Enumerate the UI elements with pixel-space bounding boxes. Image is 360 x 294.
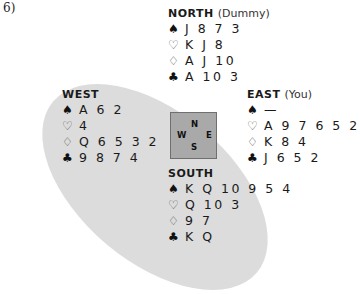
compass-north-label: N bbox=[191, 119, 198, 129]
club-icon: ♣ bbox=[168, 229, 185, 245]
suit-row-hearts: ♡ 4 bbox=[62, 118, 159, 134]
club-cards: A 10 3 bbox=[185, 69, 240, 85]
club-cards: K Q bbox=[185, 229, 215, 245]
hand-south: SOUTH ♠ K Q 10 9 5 4 ♡ Q 10 3 ♢ 9 7 ♣ K … bbox=[168, 167, 293, 245]
club-cards: 9 8 7 4 bbox=[79, 150, 140, 166]
hand-title: SOUTH bbox=[168, 167, 293, 181]
heart-icon: ♡ bbox=[62, 118, 79, 134]
diamond-cards: A J 10 bbox=[185, 53, 236, 69]
hand-north: NORTH (Dummy) ♠ J 8 7 3 ♡ K J 8 ♢ A J 10… bbox=[168, 7, 270, 85]
player-name: WEST bbox=[62, 88, 99, 101]
suit-row-spades: ♠ J 8 7 3 bbox=[168, 21, 270, 37]
spade-icon: ♠ bbox=[168, 21, 185, 37]
compass-south-label: S bbox=[191, 142, 197, 152]
spade-cards: K Q 10 9 5 4 bbox=[185, 181, 293, 197]
heart-cards: 4 bbox=[79, 118, 89, 134]
player-name: SOUTH bbox=[168, 167, 213, 180]
spade-icon: ♠ bbox=[247, 102, 264, 118]
suit-row-hearts: ♡ K J 8 bbox=[168, 37, 270, 53]
suit-row-spades: ♠ K Q 10 9 5 4 bbox=[168, 181, 293, 197]
hand-title: EAST (You) bbox=[247, 88, 360, 102]
club-icon: ♣ bbox=[62, 150, 79, 166]
spade-icon: ♠ bbox=[62, 102, 79, 118]
spade-cards: J 8 7 3 bbox=[185, 21, 242, 37]
heart-icon: ♡ bbox=[247, 118, 264, 134]
spade-cards: — bbox=[264, 102, 279, 118]
suit-row-diamonds: ♢ K 8 4 bbox=[247, 134, 360, 150]
suit-row-diamonds: ♢ Q 6 5 3 2 bbox=[62, 134, 159, 150]
club-icon: ♣ bbox=[168, 69, 185, 85]
suit-row-spades: ♠ — bbox=[247, 102, 360, 118]
suit-row-clubs: ♣ A 10 3 bbox=[168, 69, 270, 85]
heart-cards: Q 10 3 bbox=[185, 197, 242, 213]
spade-cards: A 6 2 bbox=[79, 102, 124, 118]
player-role: (You) bbox=[284, 88, 312, 101]
suit-row-hearts: ♡ Q 10 3 bbox=[168, 197, 293, 213]
player-name: NORTH bbox=[168, 7, 214, 20]
hand-west: WEST ♠ A 6 2 ♡ 4 ♢ Q 6 5 3 2 ♣ 9 8 7 4 bbox=[62, 88, 159, 166]
suit-row-clubs: ♣ J 6 5 2 bbox=[247, 150, 360, 166]
heart-cards: A 9 7 6 5 2 bbox=[264, 118, 360, 134]
problem-number: 6) bbox=[3, 1, 15, 15]
diamond-icon: ♢ bbox=[62, 134, 79, 150]
player-role: (Dummy) bbox=[218, 7, 270, 20]
suit-row-diamonds: ♢ A J 10 bbox=[168, 53, 270, 69]
suit-row-hearts: ♡ A 9 7 6 5 2 bbox=[247, 118, 360, 134]
suit-row-spades: ♠ A 6 2 bbox=[62, 102, 159, 118]
suit-row-clubs: ♣ K Q bbox=[168, 229, 293, 245]
diamond-cards: 9 7 bbox=[185, 213, 212, 229]
diamond-cards: Q 6 5 3 2 bbox=[79, 134, 159, 150]
compass-east-label: E bbox=[206, 130, 212, 140]
diamond-icon: ♢ bbox=[168, 213, 185, 229]
hand-title: WEST bbox=[62, 88, 159, 102]
spade-icon: ♠ bbox=[168, 181, 185, 197]
club-cards: J 6 5 2 bbox=[264, 150, 321, 166]
suit-row-clubs: ♣ 9 8 7 4 bbox=[62, 150, 159, 166]
compass-box: N W E S bbox=[170, 112, 217, 159]
club-icon: ♣ bbox=[247, 150, 264, 166]
hand-title: NORTH (Dummy) bbox=[168, 7, 270, 21]
suit-row-diamonds: ♢ 9 7 bbox=[168, 213, 293, 229]
player-name: EAST bbox=[247, 88, 280, 101]
compass-west-label: W bbox=[177, 130, 186, 140]
heart-cards: K J 8 bbox=[185, 37, 225, 53]
diamond-icon: ♢ bbox=[168, 53, 185, 69]
diamond-cards: K 8 4 bbox=[264, 134, 309, 150]
diamond-icon: ♢ bbox=[247, 134, 264, 150]
hand-east: EAST (You) ♠ — ♡ A 9 7 6 5 2 ♢ K 8 4 ♣ J… bbox=[247, 88, 360, 166]
heart-icon: ♡ bbox=[168, 197, 185, 213]
heart-icon: ♡ bbox=[168, 37, 185, 53]
